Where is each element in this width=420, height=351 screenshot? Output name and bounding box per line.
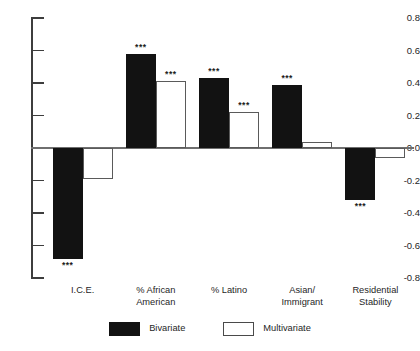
y-axis-tick-label: -0.2 [392, 176, 420, 186]
y-axis-tick-label: -0.6 [392, 241, 420, 251]
bar-multivariate [229, 112, 259, 148]
significance-marker: *** [272, 74, 302, 83]
bar-multivariate [375, 148, 405, 158]
chart-legend: BivariateMultivariate [0, 322, 420, 336]
legend-swatch-bivariate [109, 322, 140, 336]
bar-bivariate [126, 54, 156, 148]
y-axis-tick [31, 50, 44, 52]
legend-label: Multivariate [263, 324, 311, 333]
bar-multivariate [302, 142, 332, 149]
y-axis-tick-label: -0.4 [392, 208, 420, 218]
legend-label: Bivariate [149, 324, 185, 333]
y-axis-tick [31, 212, 44, 214]
significance-marker: *** [345, 202, 375, 211]
y-axis-tick-label: -0.8 [392, 273, 420, 283]
significance-marker: *** [229, 101, 259, 110]
bar-multivariate [83, 148, 113, 179]
bar-bivariate [345, 148, 375, 200]
bar-bivariate [53, 148, 83, 259]
bar-chart-figure: 0.80.60.40.20.0-0.2-0.4-0.6-0.8 ********… [0, 0, 420, 351]
bar-bivariate [199, 78, 229, 148]
legend-item: Bivariate [109, 322, 185, 336]
y-axis-tick [31, 17, 44, 19]
legend-swatch-multivariate [223, 322, 254, 336]
bar-bivariate [272, 85, 302, 148]
significance-marker: *** [156, 70, 186, 79]
y-axis-tick [31, 115, 44, 117]
y-axis-tick [31, 245, 44, 247]
y-axis-tick-label: 0.4 [392, 78, 420, 88]
x-axis-category-label: Residential Stability [333, 285, 418, 308]
significance-marker: *** [53, 261, 83, 270]
y-axis-tick-label: 0.2 [392, 111, 420, 121]
y-axis-tick [31, 180, 44, 182]
y-axis-tick [31, 82, 44, 84]
legend-item: Multivariate [223, 322, 311, 336]
y-axis-tick [31, 277, 44, 279]
y-axis-tick-label: 0.8 [392, 13, 420, 23]
bar-multivariate [156, 81, 186, 148]
significance-marker: *** [126, 43, 156, 52]
significance-marker: *** [199, 67, 229, 76]
y-axis-tick-label: 0.6 [392, 46, 420, 56]
